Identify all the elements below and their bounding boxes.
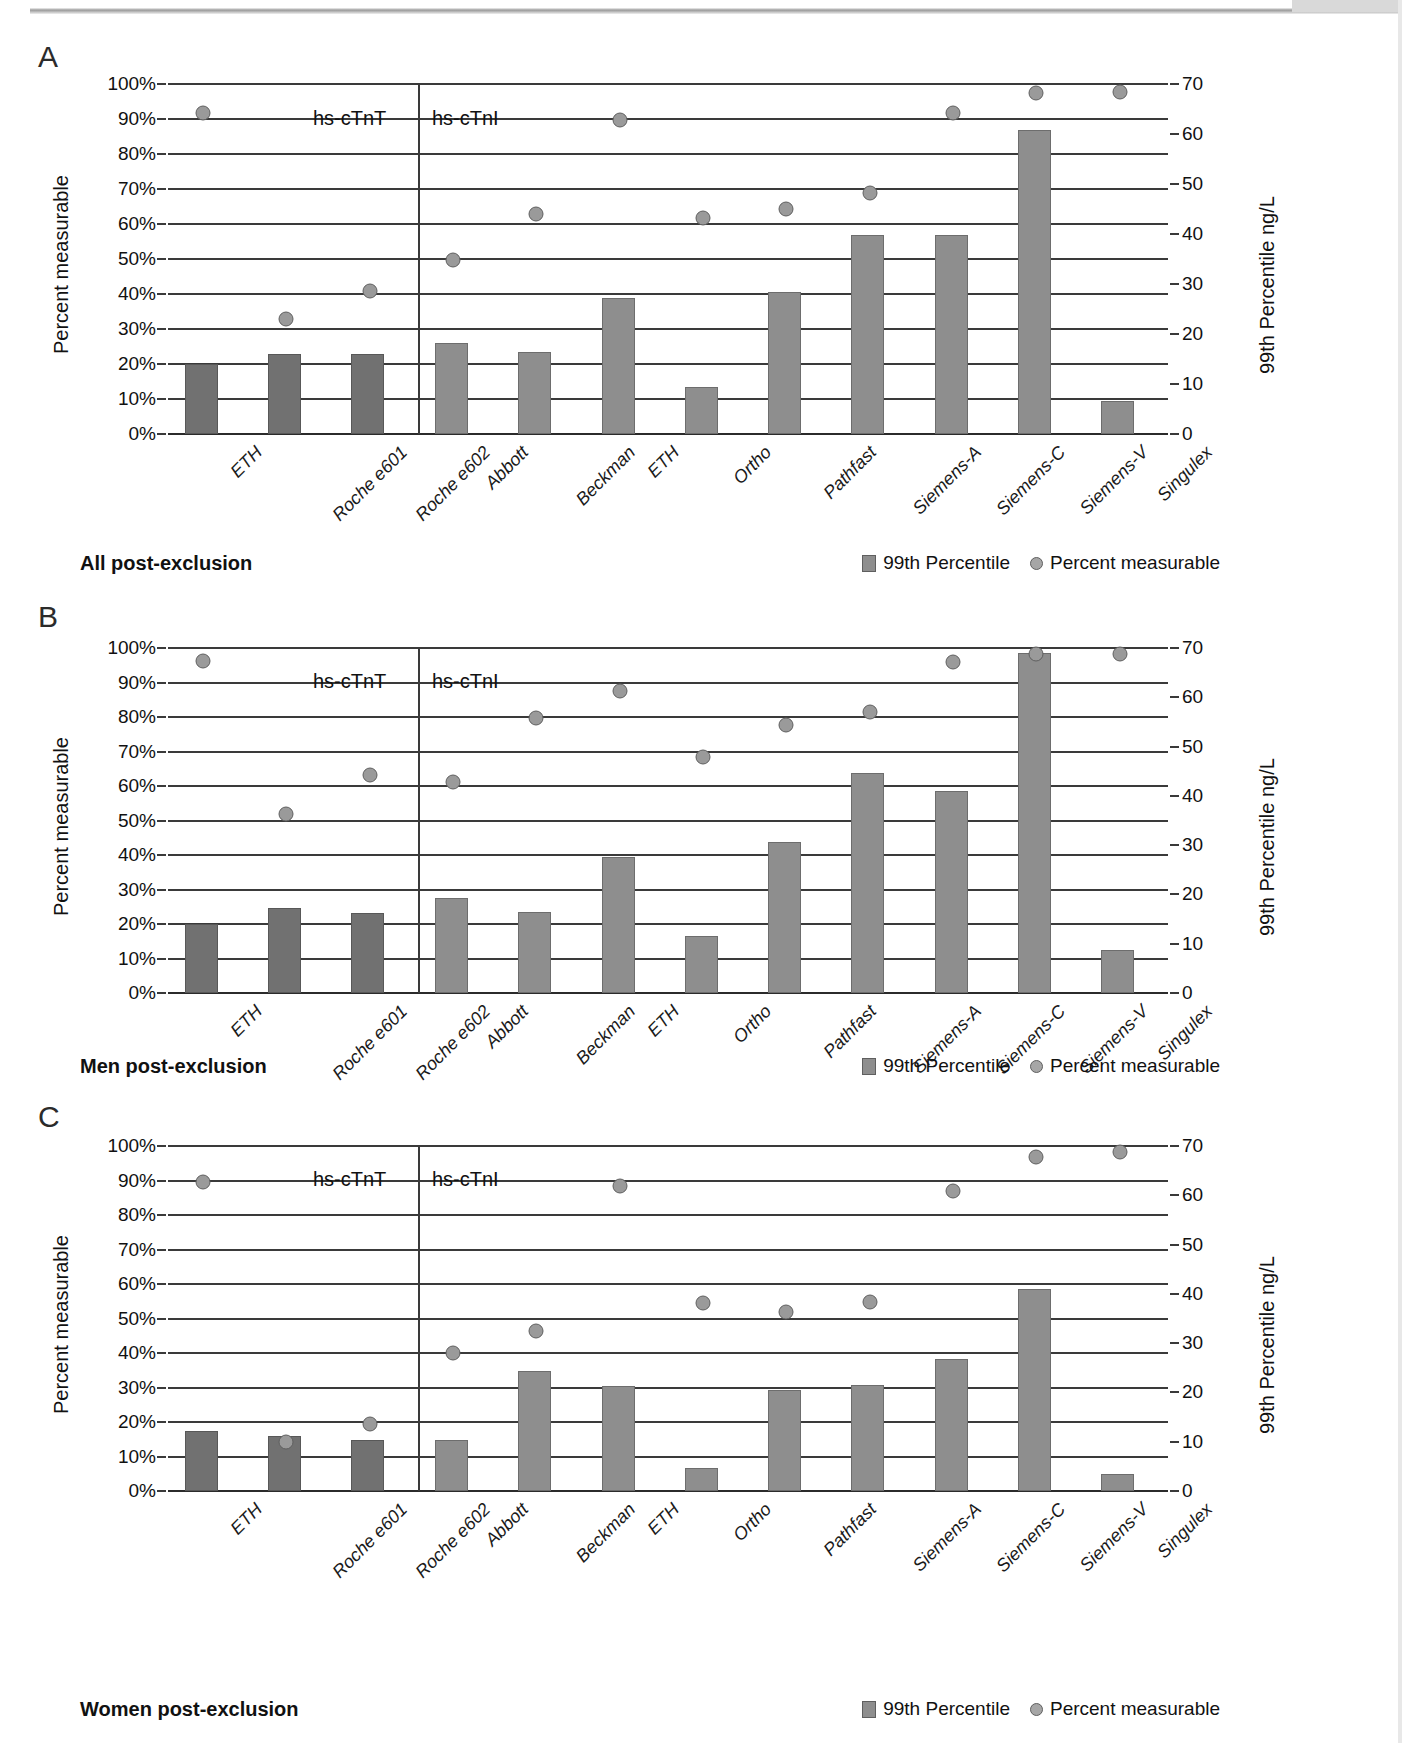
dot-percent-measurable (779, 201, 794, 216)
y-axis-tick-right: 60 (1182, 1185, 1203, 1204)
y-axis-tick-mark-left (157, 820, 166, 822)
y-axis-tick-left: 20% (118, 914, 156, 933)
y-axis-tick-right: 0 (1182, 1481, 1193, 1500)
panel-caption-c: Women post-exclusion (80, 1698, 299, 1721)
x-axis-category-label: Roche e602 (411, 442, 494, 525)
y-axis-tick-right: 0 (1182, 424, 1193, 443)
plot-area-b: 0%10%20%30%40%50%60%70%80%90%100%0102030… (168, 648, 1168, 993)
y-axis-tick-mark-right (1170, 183, 1179, 185)
y-axis-tick-left: 50% (118, 249, 156, 268)
y-axis-tick-mark-left (157, 433, 166, 435)
y-axis-tick-mark-left (157, 923, 166, 925)
x-axis-category-label: Roche e602 (411, 1001, 494, 1084)
gridline (168, 1249, 1168, 1251)
y-axis-tick-right: 20 (1182, 1382, 1203, 1401)
dot-percent-measurable (613, 1179, 628, 1194)
dot-percent-measurable (1029, 1149, 1044, 1164)
x-axis-category-label: ETH (644, 1499, 684, 1539)
y-axis-tick-mark-left (157, 1145, 166, 1147)
y-axis-tick-mark-left (157, 293, 166, 295)
x-axis-category-label: ETH (644, 442, 684, 482)
x-axis-category-label: ETH (227, 1001, 267, 1041)
assay-group-divider (418, 648, 420, 993)
y-axis-tick-left: 70% (118, 179, 156, 198)
x-axis-category-label: Beckman (572, 1499, 640, 1567)
bar-99th-percentile (1101, 401, 1134, 435)
y-axis-tick-mark-right (1170, 233, 1179, 235)
plot-inner-b: 0%10%20%30%40%50%60%70%80%90%100%0102030… (168, 648, 1168, 993)
y-axis-tick-mark-left (157, 889, 166, 891)
bar-99th-percentile (935, 235, 968, 435)
y-axis-tick-mark-left (157, 1421, 166, 1423)
y-axis-tick-mark-right (1170, 647, 1179, 649)
bar-99th-percentile (851, 773, 884, 993)
y-axis-tick-right: 30 (1182, 274, 1203, 293)
legend-bar-swatch-icon (862, 1058, 876, 1075)
x-axis-category-label: Siemens-C (992, 442, 1070, 520)
gridline (168, 647, 1168, 649)
y-axis-tick-mark-left (157, 958, 166, 960)
y-axis-tick-left: 0% (129, 1481, 156, 1500)
y-axis-tick-left: 80% (118, 707, 156, 726)
bar-99th-percentile (685, 387, 718, 435)
x-axis-category-label: ETH (644, 1001, 684, 1041)
y-axis-tick-mark-left (157, 258, 166, 260)
legend-dot-label-b: Percent measurable (1050, 1055, 1220, 1077)
bar-99th-percentile (435, 343, 468, 434)
x-axis-category-label: Ortho (729, 1499, 776, 1546)
legend-b: 99th Percentile Percent measurable (862, 1055, 1220, 1077)
y-axis-tick-left: 80% (118, 1205, 156, 1224)
y-axis-tick-left: 40% (118, 845, 156, 864)
y-axis-tick-left: 100% (107, 74, 156, 93)
y-axis-tick-mark-right (1170, 696, 1179, 698)
y-axis-tick-mark-right (1170, 1391, 1179, 1393)
dot-percent-measurable (779, 718, 794, 733)
dot-percent-measurable (196, 105, 211, 120)
y-axis-tick-right: 20 (1182, 884, 1203, 903)
x-axis-category-label: Abbott (481, 442, 533, 494)
y-axis-tick-mark-left (157, 1352, 166, 1354)
y-axis-tick-right: 10 (1182, 374, 1203, 393)
gridline (168, 83, 1168, 85)
y-axis-tick-mark-left (157, 647, 166, 649)
legend-item-bar-c: 99th Percentile (862, 1698, 1010, 1720)
y-axis-tick-mark-left (157, 1490, 166, 1492)
y-axis-tick-mark-right (1170, 1194, 1179, 1196)
x-axis-category-label: Singulex (1153, 442, 1217, 506)
x-axis-category-label: Singulex (1153, 1499, 1217, 1563)
bar-99th-percentile (685, 1468, 718, 1491)
bar-99th-percentile (602, 298, 635, 435)
y-axis-tick-left: 100% (107, 1136, 156, 1155)
bar-99th-percentile (518, 352, 551, 435)
y-axis-tick-mark-left (157, 751, 166, 753)
y-axis-tick-right: 40 (1182, 786, 1203, 805)
y-axis-tick-left: 0% (129, 424, 156, 443)
x-axis-category-label: Siemens-V (1076, 442, 1153, 519)
y-axis-title-right: 99th Percentile ng/L (1256, 758, 1279, 936)
y-axis-tick-right: 70 (1182, 1136, 1203, 1155)
y-axis-tick-mark-left (157, 1318, 166, 1320)
y-axis-tick-left: 10% (118, 949, 156, 968)
legend-item-dot-a: Percent measurable (1030, 552, 1220, 574)
y-axis-tick-left: 20% (118, 1412, 156, 1431)
y-axis-tick-mark-left (157, 328, 166, 330)
y-axis-tick-mark-left (157, 188, 166, 190)
y-axis-tick-mark-left (157, 716, 166, 718)
y-axis-tick-mark-right (1170, 795, 1179, 797)
bar-99th-percentile (768, 842, 801, 993)
bar-99th-percentile (185, 364, 218, 434)
dot-percent-measurable (863, 705, 878, 720)
y-axis-tick-mark-left (157, 83, 166, 85)
y-axis-tick-mark-right (1170, 943, 1179, 945)
group-label-hs-ctnt: hs-cTnT (313, 670, 386, 693)
y-axis-tick-right: 40 (1182, 224, 1203, 243)
dot-percent-measurable (613, 112, 628, 127)
dot-percent-measurable (446, 775, 461, 790)
y-axis-tick-mark-left (157, 223, 166, 225)
dot-percent-measurable (529, 1324, 544, 1339)
y-axis-tick-mark-left (157, 398, 166, 400)
y-axis-tick-left: 100% (107, 638, 156, 657)
y-axis-tick-left: 60% (118, 1274, 156, 1293)
plot-area-c: 0%10%20%30%40%50%60%70%80%90%100%0102030… (168, 1146, 1168, 1491)
legend-item-dot-c: Percent measurable (1030, 1698, 1220, 1720)
